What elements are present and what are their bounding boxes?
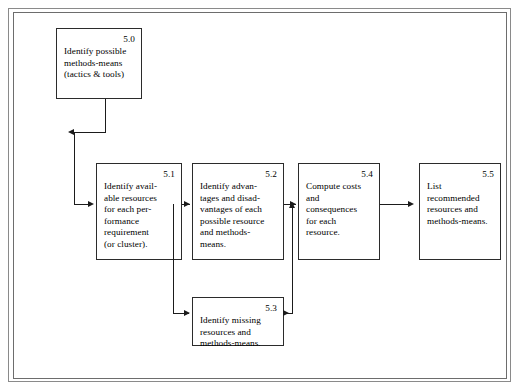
process-text-5-0: Identify possible methods-means (tactics… [64, 46, 135, 81]
arrowhead-5-1-to-5-2 [184, 201, 190, 207]
diagram-canvas: 5.0 Identify possible methods-means (tac… [0, 0, 521, 392]
arrowhead-5-4-to-5-5 [408, 201, 414, 207]
process-text-5-5: List recommended resources and methods-m… [427, 181, 494, 227]
process-number-5-0: 5.0 [64, 33, 135, 45]
process-text-5-2: Identify advan- tages and disad- vantage… [200, 181, 277, 251]
process-number-5-5: 5.5 [427, 168, 494, 180]
process-box-5-5[interactable]: 5.5 List recommended resources and metho… [419, 163, 501, 260]
process-number-5-4: 5.4 [306, 168, 373, 180]
process-text-5-4: Compute costs and consequences for each … [306, 181, 373, 239]
arrowhead-5-3-exit [283, 310, 289, 316]
process-text-5-1: Identify avail- able resources for each … [104, 181, 175, 251]
arrowhead-5-3-to-5-4-up [289, 202, 295, 208]
process-number-5-1: 5.1 [104, 168, 175, 180]
process-box-5-0[interactable]: 5.0 Identify possible methods-means (tac… [56, 28, 142, 99]
process-box-5-4[interactable]: 5.4 Compute costs and consequences for e… [298, 163, 380, 260]
arrowhead-5-0-to-5-1-right [88, 201, 94, 207]
process-box-5-3[interactable]: 5.3 Identify missing resources and metho… [192, 297, 284, 346]
arrowhead-5-1-to-5-3 [184, 310, 190, 316]
process-box-5-2[interactable]: 5.2 Identify advan- tages and disad- van… [192, 163, 284, 260]
connector-5-1-to-5-3-segment-down [173, 204, 174, 313]
connector-5-0-to-5-1-segment-down [105, 99, 106, 133]
connector-5-0-to-5-1-segment-left [74, 132, 106, 133]
process-box-5-1[interactable]: 5.1 Identify avail- able resources for e… [96, 163, 182, 260]
process-text-5-3: Identify missing resources and methods-m… [200, 315, 277, 350]
process-number-5-2: 5.2 [200, 168, 277, 180]
connector-5-3-to-5-4-segment-up [292, 208, 293, 314]
connector-5-0-to-5-1-segment-down-2 [74, 132, 75, 205]
process-number-5-3: 5.3 [200, 302, 277, 314]
